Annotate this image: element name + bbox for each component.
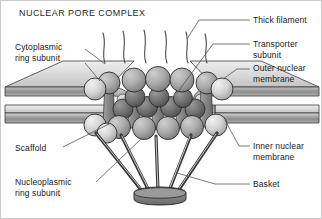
leader-thick-filament xyxy=(187,20,250,39)
label-outer-nuclear-membrane: Outer nuclear membrane xyxy=(253,63,306,84)
label-cytoplasmic-ring-subunit: Cytoplasmic ring subunit xyxy=(15,42,62,63)
label-scaffold: Scaffold xyxy=(15,143,46,154)
label-transporter-subunit: Transporter subunit xyxy=(253,39,298,60)
basket xyxy=(96,133,217,205)
label-nucleoplasmic-ring-subunit: Nucleoplasmic ring subunit xyxy=(15,177,72,198)
leader-inner-nuclear-membrane xyxy=(225,120,250,146)
label-inner-nuclear-membrane: Inner nuclear membrane xyxy=(253,141,304,162)
label-thick-filament: Thick filament xyxy=(253,15,307,26)
label-basket: Basket xyxy=(253,179,280,190)
thick-filaments xyxy=(103,30,207,63)
nuclear-pore-complex-figure: NUCLEAR PORE COMPLEX xyxy=(0,0,322,219)
